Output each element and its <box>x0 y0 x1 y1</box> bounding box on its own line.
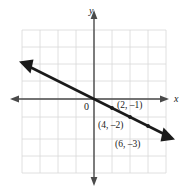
point-label-3: (6, –3) <box>115 139 140 150</box>
origin-label: 0 <box>84 101 89 112</box>
graph-svg: 0 x y (2, –1) (4, –2) (6, –3) <box>0 0 187 190</box>
y-axis-arrow-bottom <box>91 177 98 186</box>
x-axis-arrow-right <box>160 96 169 103</box>
plotted-line-arrow-right <box>161 128 176 142</box>
coordinate-plane-figure: 0 x y (2, –1) (4, –2) (6, –3) <box>0 0 187 190</box>
plotted-line-group <box>19 60 175 142</box>
data-point-marker <box>128 115 132 119</box>
point-label-1: (2, –1) <box>117 100 142 111</box>
plotted-line-arrow-left <box>19 60 34 74</box>
x-axis-arrow-left <box>10 96 19 103</box>
data-point-marker <box>146 124 150 128</box>
x-axis-label: x <box>173 93 179 104</box>
y-axis-label: y <box>88 5 94 16</box>
point-label-2: (4, –2) <box>98 120 123 131</box>
data-point-marker <box>110 106 114 110</box>
